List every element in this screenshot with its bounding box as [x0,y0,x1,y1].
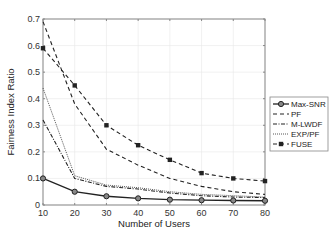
legend: Max-SNRPFM-LWDFEXP/PFFUSE [270,97,328,151]
legend-label: PF [291,110,301,119]
y-tick-label: 0.6 [27,41,40,51]
x-tick-label: 50 [165,208,175,218]
series-m-lwdf [43,120,265,198]
legend-label: EXP/PF [291,130,320,139]
y-tick-label: 0.1 [27,173,40,183]
series-exp-pf [43,88,265,197]
x-tick-label: 30 [101,208,111,218]
fairness-chart: 102030405060708000.10.20.30.40.50.60.7 N… [0,0,330,234]
x-tick-label: 70 [228,208,238,218]
x-tick-label: 20 [70,208,80,218]
y-tick-label: 0.4 [27,94,40,104]
series-pf [43,22,265,195]
legend-label: M-LWDF [291,120,323,129]
x-axis-label: Number of Users [118,218,190,229]
legend-label: FUSE [291,140,312,149]
legend-label: Max-SNR [291,100,326,109]
y-tick-label: 0.3 [27,120,40,130]
x-tick-label: 80 [260,208,270,218]
y-tick-label: 0.5 [27,67,40,77]
y-tick-label: 0 [35,200,40,210]
y-tick-label: 0.2 [27,147,40,157]
x-tick-label: 60 [197,208,207,218]
x-tick-label: 40 [133,208,143,218]
y-axis-label: Fairness Index Ratio [5,68,16,155]
y-tick-label: 0.7 [27,14,40,24]
